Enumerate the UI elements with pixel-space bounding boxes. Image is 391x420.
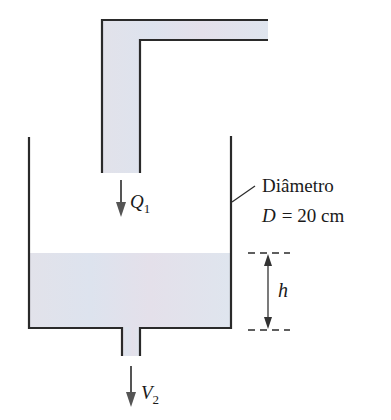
inflow-label: Q1 (130, 191, 150, 216)
tank-water (30, 253, 230, 356)
height-label: h (278, 279, 288, 301)
inflow-arrow-icon (116, 180, 126, 217)
outflow-label: V2 (141, 382, 159, 407)
tank-diagram: Q1 V2 Diâmetro D= 20 cm h (0, 0, 391, 420)
diameter-label: Diâmetro (262, 175, 334, 196)
diameter-leader-line (232, 186, 255, 202)
diameter-value: D= 20 cm (261, 205, 344, 226)
outflow-arrow-icon (126, 366, 136, 407)
inflow-pipe (102, 20, 268, 173)
